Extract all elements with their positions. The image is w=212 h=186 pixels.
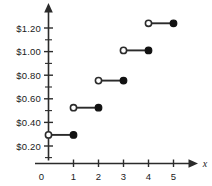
step-segment-5 xyxy=(145,20,176,27)
x-tick-label-1: 1 xyxy=(71,171,76,182)
step-segment-5-closed-endpoint xyxy=(170,20,177,27)
step-segment-2 xyxy=(70,104,101,111)
step-segment-4-open-endpoint xyxy=(120,47,126,53)
step-segment-2-open-endpoint xyxy=(70,105,76,111)
step-segment-4-closed-endpoint xyxy=(145,47,152,54)
step-segment-3-closed-endpoint xyxy=(120,77,127,84)
x-tick-label-2: 2 xyxy=(96,171,101,182)
y-axis-tick-labels: $1.20 $1.00 $0.80 $0.60 $0.40 $0.20 xyxy=(16,23,41,152)
x-tick-label-0: 0 xyxy=(39,171,44,182)
step-segment-3-open-endpoint xyxy=(95,78,101,84)
y-tick-label-1.00: $1.00 xyxy=(16,46,41,57)
y-tick-label-0.80: $0.80 xyxy=(16,70,41,81)
x-tick-label-4: 4 xyxy=(146,171,151,182)
plot-area: $1.20 $1.00 $0.80 $0.60 $0.40 $0.20 0 1 … xyxy=(0,0,212,186)
step-function-chart: $1.20 $1.00 $0.80 $0.60 $0.40 $0.20 0 1 … xyxy=(0,0,212,186)
x-axis-tick-labels: 0 1 2 3 4 5 xyxy=(39,171,176,182)
x-tick-label-5: 5 xyxy=(171,171,176,182)
y-tick-label-0.20: $0.20 xyxy=(16,141,41,152)
step-segment-4 xyxy=(120,47,151,54)
y-axis-arrowhead xyxy=(44,3,53,13)
axes-group xyxy=(35,3,198,168)
step-segment-1 xyxy=(45,132,76,139)
y-tick-label-0.60: $0.60 xyxy=(16,93,41,104)
x-tick-label-3: 3 xyxy=(121,171,126,182)
y-tick-label-0.40: $0.40 xyxy=(16,117,41,128)
step-segment-5-open-endpoint xyxy=(145,20,151,26)
x-axis-arrowhead xyxy=(189,159,199,168)
x-axis-label: x xyxy=(202,158,208,169)
y-tick-label-1.20: $1.20 xyxy=(16,23,41,34)
step-segment-1-closed-endpoint xyxy=(70,132,77,139)
step-segment-3 xyxy=(95,77,126,84)
step-segments-group xyxy=(45,20,176,138)
step-segment-2-closed-endpoint xyxy=(95,104,102,111)
step-segment-1-open-endpoint xyxy=(45,132,51,138)
